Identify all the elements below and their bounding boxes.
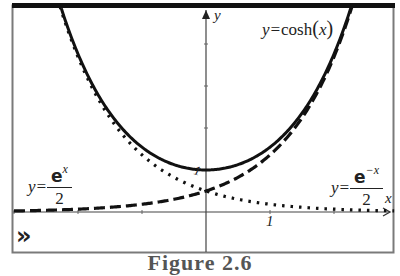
x-axis-label: x <box>385 190 392 207</box>
legend-left-denominator: 2 <box>55 188 64 209</box>
legend-cosh-func: cosh <box>281 20 312 39</box>
legend-exp-neg-x-half: y= e−x 2 <box>331 166 383 209</box>
top-border-bar <box>12 3 395 8</box>
legend-right-denominator: 2 <box>362 189 371 210</box>
legend-left-exponent: x <box>63 162 68 176</box>
legend-right-exponent: −x <box>366 163 379 177</box>
legend-exp-x-half: y= ex 2 <box>28 165 72 208</box>
legend-left-fraction: ex 2 <box>47 165 72 208</box>
legend-right-prefix: y= <box>331 178 350 198</box>
legend-right-fraction: e−x 2 <box>350 166 383 209</box>
legend-right-numerator: e−x <box>350 166 383 189</box>
plot-frame <box>13 6 394 253</box>
e-constant: e <box>51 166 63 186</box>
e-constant: e <box>354 167 366 187</box>
legend-left-prefix: y= <box>28 177 47 197</box>
y-axis-label: y <box>214 7 221 24</box>
figure-caption: Figure 2.6 <box>0 250 400 276</box>
legend-cosh: y=cosh(x) <box>262 17 333 40</box>
legend-cosh-open: ( <box>312 17 319 39</box>
legend-left-numerator: ex <box>47 165 72 188</box>
expand-chevron-icon[interactable]: » <box>16 222 32 250</box>
legend-cosh-close: ) <box>326 17 333 39</box>
legend-cosh-prefix: y= <box>262 20 281 39</box>
x-tick-label-1: 1 <box>266 213 274 230</box>
